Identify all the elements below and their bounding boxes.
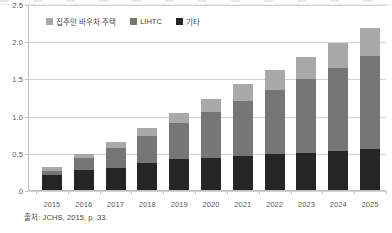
- bar-segment-lihtc: [360, 56, 380, 149]
- bar-segment-voucher: [106, 142, 126, 149]
- source-caption: 출처: JCHS, 2015, p. 33.: [24, 211, 108, 222]
- bar-group: [137, 128, 157, 190]
- x-axis-tick-label: 2024: [330, 200, 347, 209]
- bar-group: [42, 167, 62, 190]
- bar-segment-lihtc: [137, 136, 157, 163]
- stacked-bar-chart: 00.51.01.52.02.5 20152016201720182019202…: [0, 0, 392, 233]
- x-axis-tick-label: 2019: [171, 200, 188, 209]
- y-axis-tick-label: 0: [19, 187, 23, 196]
- legend-item-label: LIHTC: [140, 17, 162, 26]
- bar-segment-lihtc: [296, 79, 316, 153]
- legend-item-label: 기타: [186, 16, 200, 27]
- x-axis-tick-mark: [354, 191, 355, 194]
- bar-segment-voucher: [201, 99, 221, 112]
- y-axis-tick-mark: [25, 191, 28, 192]
- x-axis-tick-mark: [227, 191, 228, 194]
- bar-series-container: [28, 5, 386, 191]
- bar-group: [233, 84, 253, 190]
- bar-group: [74, 154, 94, 190]
- y-axis-tick-label: 1.5: [12, 75, 23, 84]
- bar-segment-other: [328, 151, 348, 190]
- y-axis-tick-label: 1.0: [12, 112, 23, 121]
- legend-swatch-other-icon: [176, 18, 183, 25]
- x-axis-tick-mark: [163, 191, 164, 194]
- y-axis-tick-label: 2.5: [12, 1, 23, 10]
- legend-item-label: 집주인 바우처 주택: [56, 16, 116, 27]
- x-axis-tick-mark: [259, 191, 260, 194]
- bar-segment-other: [169, 159, 189, 190]
- x-axis-tick-label: 2021: [234, 200, 251, 209]
- bar-segment-other: [74, 170, 94, 190]
- bar-segment-lihtc: [233, 101, 253, 156]
- bar-segment-other: [42, 175, 62, 190]
- legend-item[interactable]: 기타: [176, 16, 200, 27]
- x-axis-tick-mark: [386, 191, 387, 194]
- plot-area: 00.51.01.52.02.5 20152016201720182019202…: [28, 5, 386, 191]
- bar-group: [360, 28, 380, 190]
- bar-segment-voucher: [296, 57, 316, 79]
- bar-group: [328, 43, 348, 190]
- bar-segment-other: [106, 168, 126, 190]
- y-axis-tick-label: 0.5: [12, 149, 23, 158]
- bar-group: [169, 113, 189, 190]
- bar-segment-other: [233, 156, 253, 190]
- bar-segment-voucher: [137, 128, 157, 137]
- bar-group: [201, 99, 221, 190]
- bar-segment-lihtc: [169, 123, 189, 159]
- bar-segment-voucher: [265, 70, 285, 89]
- bar-group: [265, 70, 285, 190]
- bar-segment-other: [360, 149, 380, 190]
- x-axis-tick-label: 2020: [203, 200, 220, 209]
- bar-segment-lihtc: [265, 90, 285, 155]
- x-axis-tick-mark: [36, 191, 37, 194]
- x-axis-tick-label: 2022: [266, 200, 283, 209]
- bar-segment-lihtc: [201, 112, 221, 158]
- legend-item[interactable]: 집주인 바우처 주택: [46, 16, 116, 27]
- bar-segment-lihtc: [106, 148, 126, 167]
- bar-segment-other: [201, 158, 221, 190]
- x-axis-tick-mark: [68, 191, 69, 194]
- bar-segment-other: [296, 153, 316, 190]
- x-axis-tick-label: 2016: [75, 200, 92, 209]
- bar-segment-voucher: [360, 28, 380, 56]
- x-axis-tick-label: 2023: [298, 200, 315, 209]
- clipped-header-ghost-text: [0, 0, 392, 2]
- bar-segment-lihtc: [74, 158, 94, 170]
- legend-item[interactable]: LIHTC: [130, 17, 162, 26]
- bar-group: [296, 57, 316, 190]
- x-axis-tick-mark: [195, 191, 196, 194]
- legend-swatch-voucher-icon: [46, 18, 53, 25]
- x-axis-tick-mark: [322, 191, 323, 194]
- x-axis-tick-label: 2018: [139, 200, 156, 209]
- bar-group: [106, 142, 126, 190]
- bar-segment-other: [265, 154, 285, 190]
- bar-segment-lihtc: [328, 68, 348, 151]
- x-axis-tick-mark: [100, 191, 101, 194]
- bar-segment-voucher: [328, 43, 348, 68]
- bar-segment-other: [137, 163, 157, 190]
- x-axis-tick-label: 2017: [107, 200, 124, 209]
- legend-swatch-lihtc-icon: [130, 18, 137, 25]
- gridline: [28, 191, 386, 192]
- chart-legend: 집주인 바우처 주택LIHTC기타: [46, 16, 200, 27]
- y-axis-tick-label: 2.0: [12, 38, 23, 47]
- bar-segment-voucher: [169, 113, 189, 123]
- x-axis-tick-mark: [291, 191, 292, 194]
- bar-segment-voucher: [233, 84, 253, 101]
- x-axis-tick-label: 2015: [43, 200, 60, 209]
- x-axis-tick-mark: [131, 191, 132, 194]
- x-axis-tick-label: 2025: [362, 200, 379, 209]
